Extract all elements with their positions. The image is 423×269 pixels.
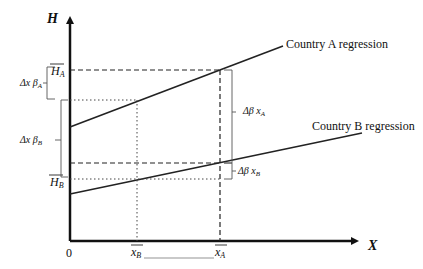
dbeta-x-b-bracket xyxy=(224,163,236,179)
dx-beta-b-bracket xyxy=(55,100,68,177)
country-a-regression-label: Country A regression xyxy=(286,37,388,51)
y-axis-label: H xyxy=(46,11,59,26)
country-b-regression-label: Country B regression xyxy=(312,119,415,133)
svg-text:xA: xA xyxy=(214,245,225,260)
dbeta-x-a-label: Δβ xA xyxy=(242,105,266,118)
h-a-label: HA xyxy=(50,64,65,79)
dbeta-x-a-bracket xyxy=(224,70,236,163)
oaxaca-decomposition-diagram: H X 0 Country A regression Country B reg… xyxy=(0,0,423,269)
x-a-label: xA xyxy=(214,245,227,260)
svg-text:HA: HA xyxy=(50,64,65,79)
dbeta-x-b-label: Δβ xB xyxy=(237,165,261,178)
origin-label: 0 xyxy=(66,246,72,260)
svg-text:xB: xB xyxy=(130,245,141,260)
dx-beta-b-label: Δx βB xyxy=(19,134,43,147)
dx-beta-a-label: Δx βA xyxy=(19,77,43,90)
x-b-label: xB xyxy=(130,245,143,260)
x-axis-label: X xyxy=(367,238,378,253)
